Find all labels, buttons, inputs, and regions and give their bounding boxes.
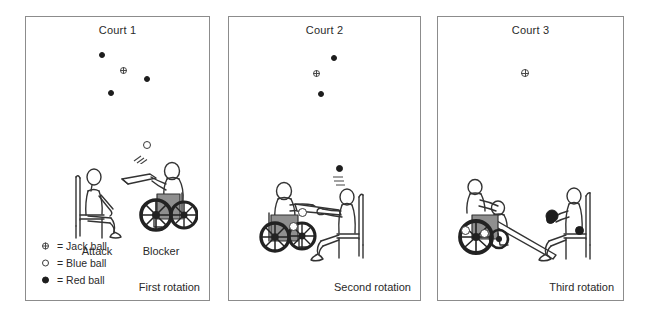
seated-player-figure — [309, 183, 381, 263]
red-ball-icon — [39, 271, 57, 288]
red-ball — [318, 91, 324, 97]
blue-ball — [289, 222, 298, 231]
jack-ball — [120, 67, 127, 74]
legend: = Jack ball = Blue ball = Red ball — [39, 237, 107, 288]
legend-item-red: = Red ball — [39, 271, 107, 288]
legend-item-blue: = Blue ball — [39, 254, 107, 271]
court-1-title: Court 1 — [26, 24, 209, 36]
red-ball — [99, 52, 105, 58]
legend-item-jack: = Jack ball — [39, 237, 107, 254]
jack-ball-icon — [39, 237, 57, 254]
blue-ball — [480, 229, 489, 238]
seated-player-figure — [538, 183, 612, 265]
legend-label-red: = Red ball — [57, 274, 105, 286]
red-ball — [575, 226, 584, 235]
court-panel-1: Court 1 — [25, 16, 210, 301]
blue-ball-icon — [39, 254, 57, 271]
rotation-label-1: First rotation — [139, 281, 200, 293]
court-3-title: Court 3 — [438, 24, 623, 36]
rotation-label-3: Third rotation — [549, 281, 614, 293]
red-ball — [108, 90, 114, 96]
court-panel-3: Court 3 — [437, 16, 624, 301]
jack-ball — [313, 70, 320, 77]
legend-label-jack: = Jack ball — [57, 240, 107, 252]
court-2-title: Court 2 — [229, 24, 420, 36]
blocker-player-figure — [120, 157, 198, 243]
player-label-blocker: Blocker — [126, 245, 196, 257]
blue-ball — [298, 208, 307, 217]
legend-label-blue: = Blue ball — [57, 257, 106, 269]
red-ball — [546, 215, 555, 224]
court-panel-2: Court 2 — [228, 16, 421, 301]
blue-ball — [143, 141, 151, 149]
jack-ball — [521, 69, 529, 77]
red-ball — [331, 55, 337, 61]
rotation-label-2: Second rotation — [334, 281, 411, 293]
boccia-rotation-diagram: Court 1 — [0, 0, 646, 317]
red-ball — [336, 165, 343, 172]
blue-ball — [461, 226, 470, 235]
red-ball — [144, 76, 150, 82]
